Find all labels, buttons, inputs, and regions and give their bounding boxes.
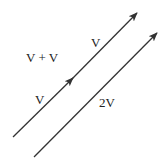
vector-v-first <box>13 78 73 137</box>
vector-v-second <box>71 13 137 80</box>
first-v-label: V <box>35 93 44 106</box>
vector-addition-diagram: V + V V V 2V <box>0 0 168 166</box>
vector-arrows <box>0 0 168 166</box>
second-v-label: V <box>91 36 100 49</box>
result-2v-label: 2V <box>99 96 115 109</box>
sum-expression-label: V + V <box>26 51 58 64</box>
